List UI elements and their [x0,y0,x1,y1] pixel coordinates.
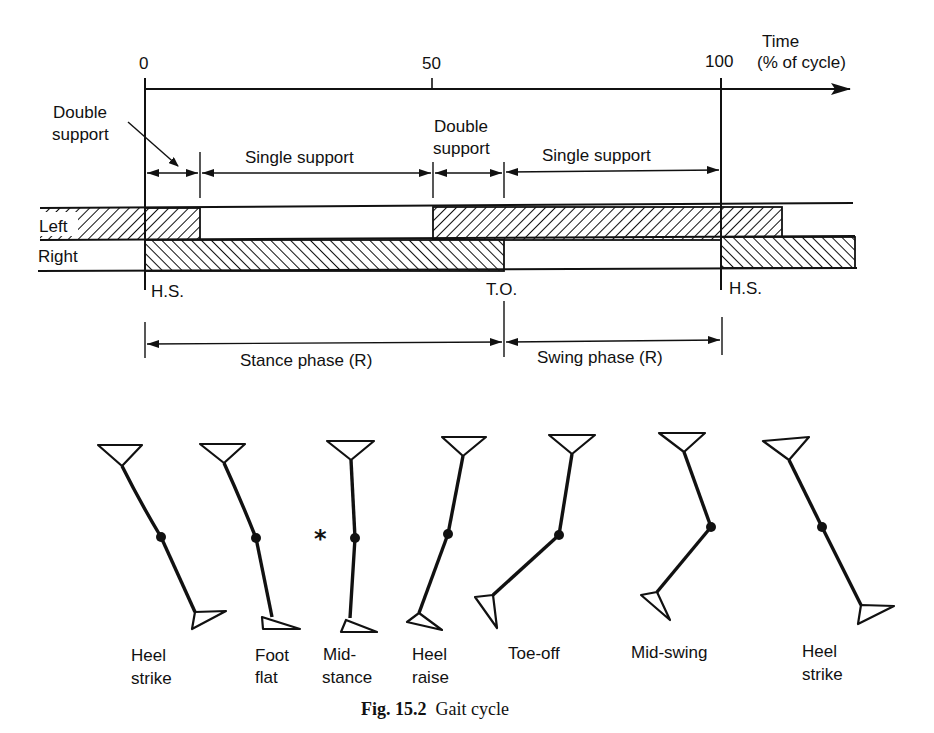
pose-heel-raise [407,437,486,630]
pose-label-mid-stance: Mid- [323,645,356,664]
heel-strike-event-1: H.S. [151,282,184,301]
pose-label-heel-strike-2: Heel [802,642,837,661]
gait-events: H.S. T.O. H.S. [151,279,762,301]
double-support-1-label: support [52,125,109,144]
tick-label-0: 0 [139,54,148,73]
pose-toe-off [475,435,595,628]
stance-swing-dimensions: Stance phase (R) Swing phase (R) [145,301,722,370]
figure-title: Gait cycle [436,699,509,719]
pose-label-heel-strike-2: strike [802,665,843,684]
pose-label-toe-off: Toe-off [508,644,560,663]
pose-label-heel-strike-1: Heel [131,646,166,665]
pose-label-heel-strike-1: strike [131,669,172,688]
pose-labels: Heel strike Foot flat Mid- stance Heel r… [131,642,843,688]
pose-label-foot-flat: flat [255,668,278,687]
pose-label-heel-raise: raise [412,668,449,687]
pose-label-heel-raise: Heel [412,645,447,664]
pose-label-mid-swing: Mid-swing [631,643,708,662]
double-support-2-label: support [433,139,490,158]
midstance-asterisk-marker: * [314,525,327,553]
stance-phase-label: Stance phase (R) [240,351,372,370]
axis-label-pct-cycle: (% of cycle) [757,53,846,72]
support-phase-dimensions: Double support Single support Double sup… [52,103,719,198]
single-support-1-label: Single support [245,148,354,167]
pose-mid-swing [641,433,716,620]
double-support-2-label: Double [434,117,488,136]
heel-strike-event-2: H.S. [729,279,762,298]
single-support-2-label: Single support [542,146,651,165]
toe-off-event: T.O. [486,280,517,299]
leg-poses: * [98,433,894,632]
pose-heel-strike-2 [763,437,894,624]
tick-label-100: 100 [705,52,733,71]
pose-label-mid-stance: stance [322,668,372,687]
figure-number: Fig. 15.2 [361,699,427,719]
foot-contact-bars: Left Right [38,78,857,290]
tick-label-50: 50 [422,54,441,73]
double-support-1-label: Double [53,103,107,122]
axis-label-time: Time [762,32,799,51]
pose-label-foot-flat: Foot [255,646,289,665]
pose-heel-strike-1 [98,445,226,629]
gait-cycle-figure: 0 50 100 Time (% of cycle) Double suppor… [0,0,934,733]
right-foot-label: Right [38,247,78,266]
swing-phase-label: Swing phase (R) [537,348,663,367]
pose-mid-stance: * [314,441,377,632]
pose-foot-flat [200,444,300,629]
left-foot-label: Left [39,217,68,236]
figure-caption: Fig. 15.2 Gait cycle [361,699,509,719]
